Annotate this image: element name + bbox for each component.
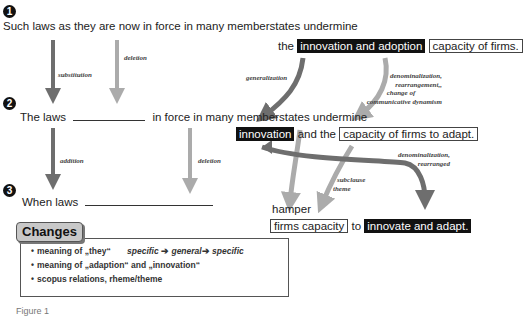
changes-title: Changes	[16, 222, 83, 242]
step-number-3: 3	[3, 184, 16, 197]
step1-sentence-right: the innovation and adoption capacity of …	[278, 40, 523, 52]
label-line: change of	[360, 89, 442, 98]
step2-inverted-highlight: innovation	[236, 127, 294, 141]
label-deletion-2: deletion	[198, 157, 221, 165]
label-line: theme	[333, 185, 365, 194]
step2-sentence-right: innovation and the capacity of firms to …	[236, 128, 478, 140]
step3-verb: hamper	[272, 203, 311, 215]
step2-blank	[73, 111, 145, 121]
step3-sentence-left: When laws	[22, 196, 213, 208]
generalization-arrow	[264, 58, 303, 116]
specific-label: specific	[127, 246, 159, 256]
label-line: denominalization,	[398, 151, 450, 160]
changes-box: •meaning of „they“ specific ➔ general➔ s…	[20, 238, 289, 297]
general-label: general	[171, 246, 201, 256]
step1-sentence-left: Such laws as they are now in force in ma…	[3, 20, 358, 32]
step1-boxed-highlight: capacity of firms.	[429, 39, 523, 53]
step2-text-b: in force in many memberstates undermine	[152, 111, 367, 123]
label-line: communicative dynamism	[338, 98, 442, 107]
changes-item: •meaning of „adaption“ and „innovation“	[31, 258, 288, 272]
label-line: rearranged	[398, 160, 450, 169]
label-addition: addition	[60, 157, 84, 165]
label-line: rearrangement,,	[390, 81, 442, 90]
changes-item-text: meaning of „they“	[37, 246, 111, 256]
label-line: denominalization,	[390, 72, 442, 81]
step-number-2: 2	[3, 97, 16, 110]
label-line: subclause	[337, 176, 365, 185]
label-substitution: substitution	[58, 71, 92, 79]
step3-sentence-right: firms capacity to innovate and adapt.	[270, 220, 471, 232]
label-deletion-1: deletion	[124, 54, 147, 62]
changes-list: •meaning of „they“ specific ➔ general➔ s…	[21, 239, 288, 286]
changes-item: •meaning of „they“ specific ➔ general➔ s…	[31, 244, 288, 258]
step1-prefix: the	[278, 40, 294, 52]
bullet: •	[31, 260, 34, 270]
step3-text: When laws	[22, 196, 78, 208]
step3-middle: to	[352, 220, 362, 232]
figure-caption: Figure 1	[16, 306, 49, 316]
label-denominalization-2: denominalization, rearranged	[398, 151, 450, 168]
step2-text-a: The laws	[20, 111, 66, 123]
changes-item-text: meaning of „adaption“ and „innovation“	[37, 260, 200, 270]
label-subclause-theme: subclause theme	[337, 176, 365, 194]
bullet: •	[31, 246, 34, 256]
step2-boxed-highlight: capacity of firms to adapt.	[339, 127, 478, 141]
step2-sentence-left: The laws in force in many memberstates u…	[20, 111, 367, 123]
specific-label: specific	[212, 246, 244, 256]
subclause-theme-arrow	[322, 146, 352, 204]
step3-inverted-highlight: innovate and adapt.	[364, 219, 471, 233]
right-arrow-icon: ➔	[161, 246, 169, 256]
step-number-1: 1	[3, 5, 16, 18]
step3-blank	[85, 196, 213, 206]
step1-inverted-highlight: innovation and adoption	[297, 39, 425, 53]
changes-item: •scopus relations, rheme/theme	[31, 272, 288, 286]
label-generalization: generalization	[246, 74, 287, 82]
changes-item-text: scopus relations, rheme/theme	[37, 274, 162, 284]
right-arrow-icon: ➔	[202, 246, 210, 256]
denominalization-arrow-1	[360, 58, 386, 115]
label-denominalization-1: denominalization, rearrangement,, change…	[390, 72, 442, 106]
bullet: •	[31, 274, 34, 284]
step3-boxed-highlight: firms capacity	[270, 219, 348, 233]
step2-middle: and the	[298, 128, 336, 140]
